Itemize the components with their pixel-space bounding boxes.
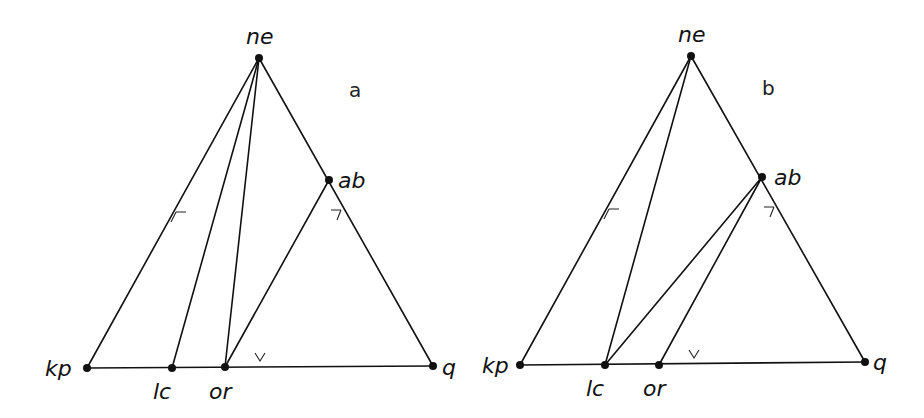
vertex-q: [429, 362, 437, 370]
edge-kp-q: [520, 362, 865, 365]
panel-b: neabkplcorqb: [482, 22, 887, 401]
edge-ne-q: [259, 58, 433, 366]
vertex-kp: [516, 361, 524, 369]
vertex-label-ab: ab: [338, 168, 365, 193]
vertex-label-q: q: [442, 355, 456, 380]
vertex-label-ne: ne: [678, 22, 705, 47]
vertex-ne: [255, 54, 263, 62]
arrow-tick-icon: [255, 353, 265, 361]
edge-ne-q: [691, 56, 865, 362]
vertex-kp: [83, 364, 91, 372]
vertex-lc: [601, 361, 609, 369]
vertex-or: [655, 361, 663, 369]
arrow-tick-icon: [764, 207, 774, 217]
vertex-q: [861, 358, 869, 366]
vertex-label-kp: kp: [482, 353, 509, 378]
vertex-ab: [325, 176, 333, 184]
vertex-label-or: or: [643, 376, 667, 401]
arrow-tick-icon: [331, 210, 341, 220]
edge-or-ab: [225, 180, 329, 367]
vertex-label-ab: ab: [774, 165, 801, 190]
vertex-label-kp: kp: [45, 356, 72, 381]
panel-a: neabkplcorqa: [45, 24, 456, 404]
vertex-label-lc: lc: [586, 376, 604, 401]
edge-kp-q: [87, 366, 433, 368]
vertex-ne: [687, 52, 695, 60]
vertex-label-ne: ne: [246, 24, 273, 49]
vertex-label-or: or: [209, 379, 233, 404]
edge-ne-kp: [520, 56, 691, 365]
diagram-canvas: neabkplcorqa neabkplcorqb: [0, 0, 924, 418]
vertex-label-q: q: [873, 350, 887, 375]
edge-lc-ab: [605, 177, 762, 365]
edge-ne-lc: [172, 58, 259, 368]
edge-ne-kp: [87, 58, 259, 368]
edge-or-ab: [659, 177, 762, 365]
arrow-tick-icon: [689, 350, 699, 358]
panel-label: a: [349, 78, 361, 102]
vertex-or: [221, 363, 229, 371]
edge-ne-lc: [605, 56, 691, 365]
edge-ne-or: [225, 58, 259, 367]
vertex-ab: [758, 173, 766, 181]
vertex-lc: [168, 364, 176, 372]
vertex-label-lc: lc: [153, 379, 171, 404]
panel-label: b: [762, 76, 775, 100]
